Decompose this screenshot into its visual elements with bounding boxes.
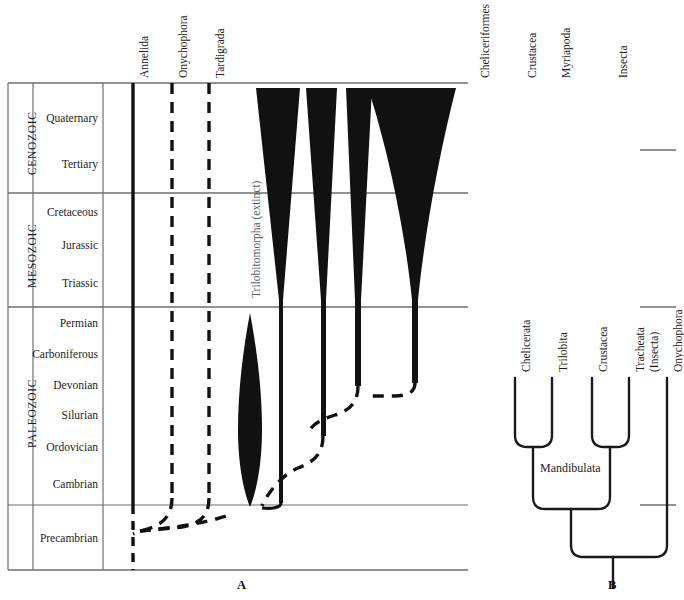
node-mandibulata xyxy=(592,378,629,447)
taxon-label-trilobitomorpha: Trilobitomorpha (extinct) xyxy=(250,181,262,298)
panel-id-a: A xyxy=(237,578,246,593)
clade-node-label-mandibulata: Mandibulata xyxy=(540,461,601,476)
taxon-label-tardigrada: Tardigrada xyxy=(214,28,226,78)
period-carboniferous: Carboniferous xyxy=(0,348,98,360)
clade-tip-label-onychophora: Onychophora xyxy=(672,309,684,372)
node-arthropoda xyxy=(533,447,610,509)
node-chelicerata-trilobita xyxy=(515,378,552,447)
period-permian: Permian xyxy=(0,317,98,329)
cladogram-b xyxy=(515,378,667,588)
clade-tip-label-trilobita: Trilobita xyxy=(557,332,569,372)
taxon-label-myriapoda: Myriapoda xyxy=(560,28,572,78)
period-precambrian: Precambrian xyxy=(0,532,98,544)
period-devonian: Devonian xyxy=(0,379,98,391)
clade-tip-label-crustacea: Crustacea xyxy=(597,327,609,372)
clade-tip-label-chelicerata: Chelicerata xyxy=(520,320,532,372)
taxon-label-annelida: Annelida xyxy=(138,36,150,78)
taxon-label-crustacea: Crustacea xyxy=(526,33,538,78)
period-triassic: Triassic xyxy=(0,277,98,289)
basal-connector xyxy=(140,514,232,531)
clade-tip-label-tracheata: Tracheata xyxy=(634,327,646,372)
lineage-onychophora xyxy=(133,83,172,534)
clade-tip-sublabel-tracheata: (Insecta) xyxy=(648,332,660,372)
period-cretaceous: Cretaceous xyxy=(0,206,98,218)
taxon-label-onychophora: Onychophora xyxy=(177,15,189,78)
taxon-label-insecta: Insecta xyxy=(617,45,629,78)
period-silurian: Silurian xyxy=(0,409,98,421)
lineage-insecta xyxy=(366,88,456,396)
period-ordovician: Ordovician xyxy=(0,441,98,453)
uncertainty-question-mark: ? xyxy=(169,500,173,511)
lineage-cheliceriformes xyxy=(256,88,300,508)
taxon-label-cheliceriformes: Cheliceriformes xyxy=(479,4,491,78)
period-jurassic: Jurassic xyxy=(0,239,98,251)
lineage-trilobitomorpha xyxy=(238,313,262,507)
period-quaternary: Quaternary xyxy=(0,112,98,124)
panel-id-b: B xyxy=(608,578,616,593)
period-tertiary: Tertiary xyxy=(0,158,98,170)
period-cambrian: Cambrian xyxy=(0,478,98,490)
